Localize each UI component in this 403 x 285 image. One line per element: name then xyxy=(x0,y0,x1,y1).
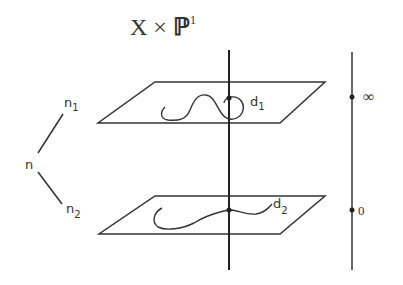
curve-d2-label: d2 xyxy=(273,196,288,216)
curve-d2 xyxy=(154,204,272,229)
curve-d1-label: d1 xyxy=(250,94,265,112)
tree-node-n: n xyxy=(25,157,33,172)
point-zero xyxy=(350,208,355,213)
tree-edge-upper xyxy=(38,114,63,153)
label-zero: 0 xyxy=(358,203,365,218)
point-on-d1 xyxy=(227,96,232,101)
upper-plane xyxy=(98,82,325,123)
tree-node-n1: n1 xyxy=(64,95,79,113)
point-infinity xyxy=(350,95,355,100)
diagram-title: X × ℙ1 xyxy=(130,13,196,40)
tree-node-n2: n2 xyxy=(66,201,81,220)
diagram-canvas: X × ℙ1 n1 n n2 d1 d2 ∞ 0 xyxy=(0,0,403,285)
label-infinity: ∞ xyxy=(363,88,374,105)
tree-edge-lower xyxy=(38,172,62,204)
point-on-d2 xyxy=(227,208,232,213)
degeneration-tree xyxy=(38,114,63,204)
